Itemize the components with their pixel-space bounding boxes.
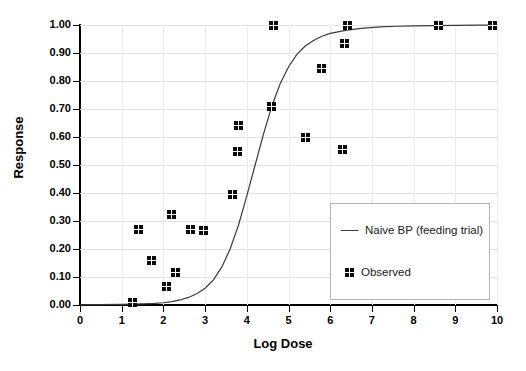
y-tick-label: 0.40 bbox=[33, 187, 71, 198]
legend-item-naive-bp: Naive BP (feeding trial) bbox=[341, 224, 483, 236]
x-axis-title: Log Dose bbox=[0, 336, 526, 351]
data-point-marker bbox=[317, 64, 326, 73]
data-point-marker bbox=[228, 190, 237, 199]
data-point-marker bbox=[301, 133, 310, 142]
data-point-marker bbox=[269, 21, 278, 30]
y-tick-label: 0.70 bbox=[33, 103, 71, 114]
legend-square-marker-icon bbox=[345, 268, 354, 277]
data-point-marker bbox=[488, 21, 497, 30]
data-point-marker bbox=[186, 225, 195, 234]
data-point-marker bbox=[234, 121, 243, 130]
data-point-marker bbox=[267, 102, 276, 111]
data-point-marker bbox=[147, 256, 156, 265]
data-point-marker bbox=[128, 298, 137, 307]
y-axis-title: Response bbox=[11, 78, 26, 218]
chart-container: Response 0.000.100.200.300.400.500.600.7… bbox=[0, 0, 526, 371]
legend-label-observed: Observed bbox=[361, 266, 411, 278]
y-tick-label: 0.90 bbox=[33, 47, 71, 58]
x-tick-mark bbox=[330, 306, 331, 312]
gridline-vertical bbox=[497, 25, 498, 305]
legend-label-naive-bp: Naive BP (feeding trial) bbox=[365, 224, 483, 236]
x-tick-mark bbox=[497, 306, 498, 312]
y-tick-label: 0.00 bbox=[33, 299, 71, 310]
y-tick-label: 1.00 bbox=[33, 19, 71, 30]
y-tick-label: 0.60 bbox=[33, 131, 71, 142]
x-tick-mark bbox=[122, 306, 123, 312]
x-tick-mark bbox=[372, 306, 373, 312]
y-tick-label: 0.80 bbox=[33, 75, 71, 86]
x-tick-mark bbox=[414, 306, 415, 312]
legend-line-swatch-icon bbox=[341, 230, 358, 231]
data-point-marker bbox=[162, 282, 171, 291]
x-tick-label: 9 bbox=[440, 314, 470, 327]
y-tick-label: 0.30 bbox=[33, 215, 71, 226]
y-tick-label: 0.20 bbox=[33, 243, 71, 254]
x-tick-mark bbox=[247, 306, 248, 312]
data-point-marker bbox=[171, 268, 180, 277]
x-tick-label: 8 bbox=[399, 314, 429, 327]
x-tick-label: 5 bbox=[274, 314, 304, 327]
data-point-marker bbox=[199, 226, 208, 235]
data-point-marker bbox=[338, 145, 347, 154]
y-tick-label: 0.10 bbox=[33, 271, 71, 282]
gridline-vertical bbox=[205, 25, 206, 305]
gridline-vertical bbox=[163, 25, 164, 305]
data-point-marker bbox=[233, 147, 242, 156]
x-tick-mark bbox=[455, 306, 456, 312]
x-tick-label: 0 bbox=[65, 314, 95, 327]
chart-legend: Naive BP (feeding trial) Observed bbox=[330, 203, 490, 300]
x-tick-mark bbox=[163, 306, 164, 312]
gridline-vertical bbox=[289, 25, 290, 305]
data-point-marker bbox=[434, 21, 443, 30]
data-point-marker bbox=[134, 225, 143, 234]
x-tick-mark bbox=[80, 306, 81, 312]
gridline-vertical bbox=[122, 25, 123, 305]
x-tick-mark bbox=[205, 306, 206, 312]
x-tick-label: 2 bbox=[148, 314, 178, 327]
data-point-marker bbox=[167, 210, 176, 219]
y-tick-label: 0.50 bbox=[33, 159, 71, 170]
x-tick-label: 6 bbox=[315, 314, 345, 327]
gridline-vertical bbox=[247, 25, 248, 305]
data-point-marker bbox=[340, 39, 349, 48]
x-tick-mark bbox=[289, 306, 290, 312]
legend-item-observed: Observed bbox=[341, 266, 411, 278]
x-tick-label: 10 bbox=[482, 314, 512, 327]
x-tick-label: 1 bbox=[107, 314, 137, 327]
x-tick-label: 4 bbox=[232, 314, 262, 327]
data-point-marker bbox=[343, 21, 352, 30]
x-tick-label: 7 bbox=[357, 314, 387, 327]
x-tick-label: 3 bbox=[190, 314, 220, 327]
